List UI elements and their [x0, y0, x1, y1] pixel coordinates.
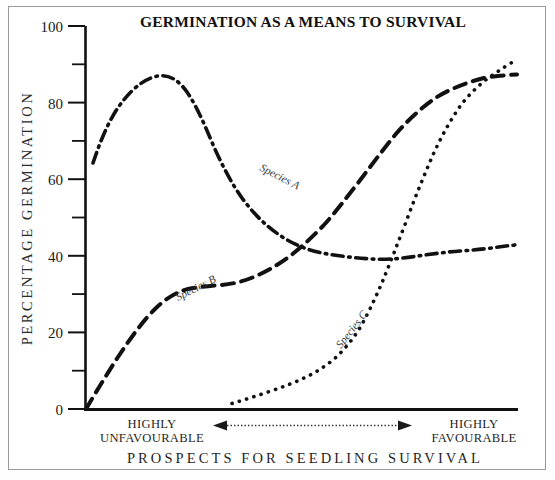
- germination-chart-figure: GERMINATION AS A MEANS TO SURVIVAL 100 8…: [0, 0, 555, 480]
- y-axis-minor-ticks: [72, 64, 85, 370]
- y-tick-label-20: 20: [48, 325, 63, 341]
- arrow-head-right: [398, 421, 412, 431]
- y-axis-title: PERCENTAGE GERMINATION: [19, 91, 35, 346]
- y-tick-label-100: 100: [41, 19, 64, 35]
- y-tick-label-0: 0: [56, 402, 64, 418]
- x-label-left-line2: UNFAVOURABLE: [100, 431, 204, 445]
- y-tick-label-60: 60: [48, 172, 63, 188]
- y-tick-label-40: 40: [48, 249, 63, 265]
- x-label-right-line2: FAVOURABLE: [431, 431, 516, 445]
- chart-canvas: GERMINATION AS A MEANS TO SURVIVAL 100 8…: [0, 0, 555, 480]
- series-line-species-a: [93, 76, 517, 260]
- x-label-left-line1: HIGHLY: [128, 417, 177, 431]
- x-label-right-line1: HIGHLY: [450, 417, 499, 431]
- arrow-head-left: [213, 421, 227, 431]
- gradient-arrow-icon: [213, 421, 412, 431]
- series-label-species-c: Species C: [333, 308, 370, 350]
- series-label-species-a: Species A: [258, 161, 302, 191]
- x-axis-title: PROSPECTS FOR SEEDLING SURVIVAL: [127, 450, 483, 466]
- y-tick-label-80: 80: [48, 96, 63, 112]
- chart-title: GERMINATION AS A MEANS TO SURVIVAL: [140, 13, 466, 30]
- series-line-species-b: [86, 75, 517, 410]
